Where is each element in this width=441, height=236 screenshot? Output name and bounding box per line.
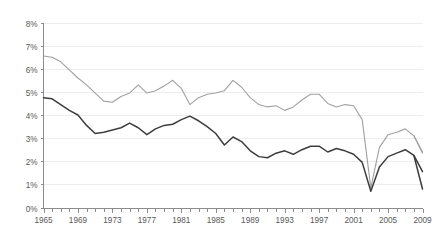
x-axis-tick-label: 1989 — [241, 216, 260, 225]
y-axis-tick-label: 4% — [26, 112, 38, 121]
x-axis-tick-label: 1973 — [103, 216, 122, 225]
y-axis-tick-label: 2% — [26, 158, 38, 167]
x-axis-tick-label: 2001 — [344, 216, 363, 225]
x-axis-tick-label: 1969 — [69, 216, 88, 225]
series-lines — [44, 56, 423, 191]
x-axis-tick-label: 1965 — [34, 216, 53, 225]
y-axis: 0%1%2%3%4%5%6%7%8% — [26, 20, 44, 214]
x-axis-tick-label: 2009 — [413, 216, 432, 225]
y-axis-tick-label: 1% — [26, 181, 38, 190]
x-axis-tick-label: 1985 — [207, 216, 226, 225]
y-axis-tick-label: 3% — [26, 135, 38, 144]
y-axis-tick-label: 5% — [26, 89, 38, 98]
y-axis-tick-label: 7% — [26, 43, 38, 52]
y-axis-tick-label: 6% — [26, 66, 38, 75]
line-chart: 0%1%2%3%4%5%6%7%8% 196519691973197719811… — [0, 0, 441, 236]
gridlines — [44, 24, 423, 185]
x-axis-tick-label: 1993 — [276, 216, 295, 225]
x-axis-tick-label: 1981 — [172, 216, 191, 225]
x-axis-tick-label: 1997 — [310, 216, 329, 225]
chart-canvas: 0%1%2%3%4%5%6%7%8% 196519691973197719811… — [0, 0, 441, 236]
x-axis: 1965196919731977198119851989199319972001… — [34, 209, 432, 225]
x-axis-tick-label: 2005 — [379, 216, 398, 225]
y-axis-tick-label: 8% — [26, 20, 38, 29]
series-line-upper-series — [44, 56, 423, 188]
y-axis-tick-label: 0% — [26, 205, 38, 214]
x-axis-tick-label: 1977 — [138, 216, 157, 225]
